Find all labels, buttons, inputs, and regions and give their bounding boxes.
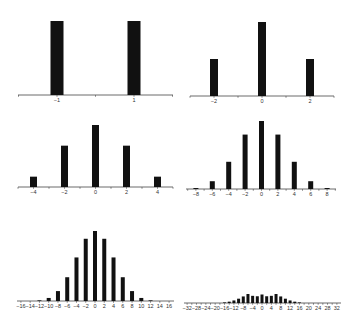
x-tick-label: 2	[308, 98, 311, 104]
x-tick-label: −24	[201, 305, 210, 311]
x-tick-label: 0	[260, 98, 263, 104]
x-tick-label: −12	[35, 303, 44, 309]
x-tick-label: 12	[287, 305, 293, 311]
x-tick-label: 24	[315, 305, 321, 311]
x-tick-label: −32	[182, 305, 191, 311]
bar	[210, 181, 215, 189]
bar	[47, 298, 51, 301]
x-tick-label: −14	[26, 303, 35, 309]
x-tick-label: −28	[192, 305, 201, 311]
bar	[246, 294, 249, 303]
bar	[251, 296, 254, 303]
bar	[228, 302, 231, 303]
bar	[154, 177, 161, 187]
x-tick-label: −6	[209, 191, 215, 197]
x-tick-label: −1	[54, 97, 60, 103]
bar	[265, 296, 268, 303]
bar	[292, 162, 297, 189]
bar	[30, 177, 37, 187]
bar	[123, 146, 130, 187]
x-tick-label: 4	[293, 191, 296, 197]
panel-3: −4−2024	[18, 125, 173, 195]
bar	[84, 239, 88, 301]
x-tick-label: 1	[132, 97, 135, 103]
bar	[74, 257, 78, 301]
x-tick-label: −2	[83, 303, 89, 309]
bar	[261, 295, 264, 304]
x-tick-label: −20	[211, 305, 220, 311]
x-tick-label: −10	[44, 303, 53, 309]
bar	[275, 294, 278, 303]
bar	[37, 300, 41, 301]
x-tick-label: −2	[211, 98, 217, 104]
x-tick-label: 14	[157, 303, 163, 309]
bar	[61, 146, 68, 187]
x-tick-label: −8	[240, 305, 246, 311]
panel-2: −202	[190, 22, 334, 104]
x-tick-label: 8	[326, 191, 329, 197]
bar	[51, 21, 64, 95]
bar	[92, 125, 99, 187]
x-tick-label: −2	[242, 191, 248, 197]
bar	[223, 302, 226, 303]
x-tick-label: 0	[260, 305, 263, 311]
bar	[279, 296, 282, 303]
bar	[259, 121, 264, 189]
x-tick-label: 6	[121, 303, 124, 309]
x-tick-label: 0	[93, 303, 96, 309]
bar	[242, 296, 245, 303]
x-tick-label: 4	[156, 189, 159, 195]
x-tick-label: −4	[249, 305, 255, 311]
bar	[193, 188, 198, 189]
chart-grid: −11 −202 −4−2024 −8−6−4−202468 −16−14−12…	[0, 0, 359, 325]
x-tick-label: 32	[334, 305, 340, 311]
bar	[298, 302, 301, 303]
x-tick-label: 28	[324, 305, 330, 311]
x-tick-label: 16	[166, 303, 172, 309]
bar	[130, 291, 134, 301]
panel-1: −11	[18, 21, 173, 103]
x-tick-label: 16	[296, 305, 302, 311]
bar	[270, 296, 273, 303]
bar	[56, 291, 60, 301]
bar	[284, 299, 287, 303]
x-tick-label: 4	[270, 305, 273, 311]
bar	[258, 22, 266, 96]
x-tick-label: 0	[260, 191, 263, 197]
x-tick-label: 8	[279, 305, 282, 311]
bar	[256, 296, 259, 303]
x-tick-label: −16	[220, 305, 229, 311]
bar	[308, 181, 313, 189]
x-tick-label: 0	[94, 189, 97, 195]
bar	[112, 257, 116, 301]
bar	[149, 300, 153, 301]
x-tick-label: −16	[16, 303, 25, 309]
x-tick-label: 10	[138, 303, 144, 309]
bar	[121, 277, 125, 301]
x-tick-label: −12	[229, 305, 238, 311]
bar	[293, 302, 296, 303]
bar	[139, 298, 143, 301]
panel-6: −32−28−24−20−16−12−8−4048121620242832	[182, 294, 341, 311]
x-tick-label: 20	[306, 305, 312, 311]
x-tick-label: −6	[64, 303, 70, 309]
x-tick-label: −4	[73, 303, 79, 309]
bar	[93, 231, 97, 301]
panel-4: −8−6−4−202468	[186, 121, 336, 197]
bar	[275, 135, 280, 189]
bar	[289, 300, 292, 303]
x-tick-label: 12	[147, 303, 153, 309]
x-tick-label: −8	[55, 303, 61, 309]
bar	[237, 299, 240, 303]
bar	[306, 59, 314, 96]
bar	[65, 277, 69, 301]
bar	[243, 135, 248, 189]
bar	[325, 188, 330, 189]
bar	[232, 300, 235, 303]
x-tick-label: −2	[61, 189, 67, 195]
x-tick-label: −4	[226, 191, 232, 197]
panel-5: −16−14−12−10−8−6−4−20246810121416	[16, 231, 174, 309]
x-tick-label: −8	[193, 191, 199, 197]
x-tick-label: 8	[131, 303, 134, 309]
bar	[102, 239, 106, 301]
